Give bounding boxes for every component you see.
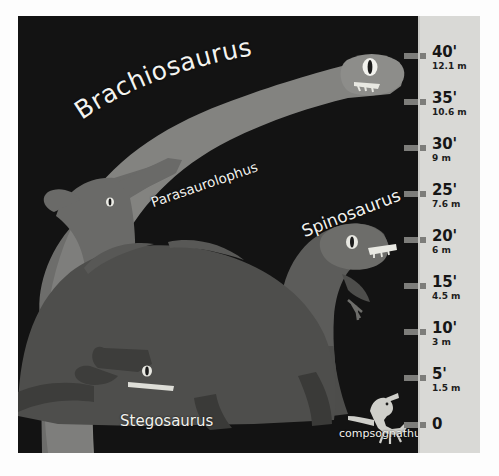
dinosaur-silhouettes (18, 16, 418, 453)
tick-label-group: 25'7.6 m (432, 183, 460, 209)
tick-label-group: 10'3 m (432, 321, 457, 347)
tick-label-feet: 0 (432, 417, 442, 432)
height-scale: 40'12.1 m35'10.6 m30'9 m25'7.6 m20'6 m15… (418, 16, 480, 453)
tick-label-group: 40'12.1 m (432, 45, 467, 71)
compsognathus-silhouette (348, 393, 408, 444)
tick-label-feet: 25' (432, 183, 460, 198)
dinosaur-size-chart: Brachiosaurus Parasaurolophus Spinosauru… (0, 0, 499, 476)
tick-mark-icon (404, 99, 426, 105)
tick-label-feet: 35' (432, 91, 467, 106)
tick-mark-icon (404, 422, 426, 428)
tick-label-meters: 4.5 m (432, 292, 460, 301)
tick-label-group: 15'4.5 m (432, 275, 460, 301)
tick-label-meters: 7.6 m (432, 200, 460, 209)
tick-label-group: 5'1.5 m (432, 367, 460, 393)
tick-mark-icon (404, 191, 426, 197)
illustration-panel: Brachiosaurus Parasaurolophus Spinosauru… (18, 16, 418, 453)
tick-label-group: 35'10.6 m (432, 91, 467, 117)
tick-label-feet: 10' (432, 321, 457, 336)
tick-label-meters: 9 m (432, 154, 457, 163)
tick-label-feet: 40' (432, 45, 467, 60)
tick-label-feet: 15' (432, 275, 460, 290)
tick-label-meters: 12.1 m (432, 62, 467, 71)
tick-label-meters: 3 m (432, 338, 457, 347)
tick-label-group: 30'9 m (432, 137, 457, 163)
tick-label-group: 20'6 m (432, 229, 457, 255)
tick-label-group: 0 (432, 417, 442, 432)
tick-label-feet: 20' (432, 229, 457, 244)
tick-label-meters: 6 m (432, 246, 457, 255)
tick-label-meters: 10.6 m (432, 108, 467, 117)
tick-mark-icon (404, 283, 426, 289)
tick-mark-icon (404, 237, 426, 243)
tick-mark-icon (404, 53, 426, 59)
tick-label-feet: 5' (432, 367, 460, 382)
tick-mark-icon (404, 329, 426, 335)
tick-mark-icon (404, 375, 426, 381)
tick-mark-icon (404, 145, 426, 151)
compsognathus-eye (386, 403, 389, 406)
tick-label-meters: 1.5 m (432, 384, 460, 393)
tick-label-feet: 30' (432, 137, 457, 152)
